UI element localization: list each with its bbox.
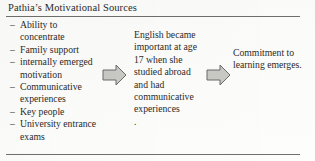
arrow-sources-to-experience-icon: [102, 64, 127, 86]
figure-title: Pathia’s Motivational Sources: [8, 1, 137, 14]
list-item: – University entrance exams: [10, 118, 102, 143]
list-dash-icon: –: [10, 106, 15, 118]
motivational-sources-list: – Ability to concentrate – Family suppor…: [10, 19, 102, 143]
list-item: – Family support: [10, 44, 102, 56]
list-dash-icon: –: [10, 19, 15, 31]
stage-commitment-text: Commitment to learning emerges.: [233, 47, 309, 72]
list-item-label: internally emerged motivation: [20, 56, 102, 81]
bottom-divider-rule: [6, 154, 300, 155]
list-item-label: Communicative experiences: [20, 81, 102, 106]
top-divider-rule: [6, 16, 300, 17]
list-item-label: Family support: [20, 44, 102, 56]
list-dash-icon: –: [10, 44, 15, 56]
stage-experience-label: English became important at age 17 when …: [134, 29, 197, 114]
stage-experience-trailing-period: .: [134, 116, 206, 128]
stage-experience-text: English became important at age 17 when …: [134, 29, 206, 128]
list-item: – Communicative experiences: [10, 81, 102, 106]
stage-commitment-label: Commitment to learning emerges.: [233, 47, 302, 70]
list-dash-icon: –: [10, 56, 15, 68]
motivational-sources-figure: Pathia’s Motivational Sources – Ability …: [0, 0, 315, 161]
list-item-label: Ability to concentrate: [20, 19, 102, 44]
list-item-label: Key people: [20, 106, 102, 118]
list-dash-icon: –: [10, 81, 15, 93]
list-dash-icon: –: [10, 118, 15, 130]
list-item: – internally emerged motivation: [10, 56, 102, 81]
list-item: – Key people: [10, 106, 102, 118]
list-item: – Ability to concentrate: [10, 19, 102, 44]
list-item-label: University entrance exams: [20, 118, 102, 143]
arrow-experience-to-commitment-icon: [206, 64, 231, 86]
